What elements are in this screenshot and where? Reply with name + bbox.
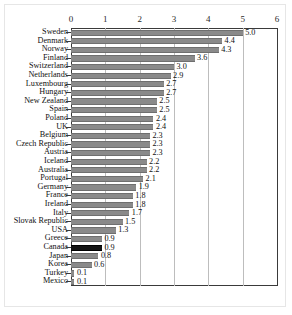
bar	[71, 184, 136, 190]
bar	[71, 236, 102, 242]
bar	[71, 73, 171, 79]
bar	[71, 30, 243, 36]
x-axis-tick-label: 2	[132, 14, 148, 25]
bar-row: Mexico0.1	[0, 277, 292, 286]
bar	[71, 81, 164, 87]
bar-highlighted	[71, 245, 102, 251]
x-axis-tick-label: 6	[269, 14, 285, 25]
bar-rows: Sweden5.0Denmark4.4Norway4.3Finland3.6Sw…	[0, 28, 292, 286]
x-axis-tick-label: 3	[166, 14, 182, 25]
bar	[71, 107, 157, 113]
bar-chart-figure: 0123456 Sweden5.0Denmark4.4Norway4.3Finl…	[0, 0, 292, 315]
category-label: Mexico	[43, 276, 68, 286]
bar	[71, 141, 150, 147]
bar-value-label: 0.1	[77, 277, 87, 287]
bar	[71, 219, 123, 225]
bar	[71, 55, 195, 61]
bar	[71, 98, 157, 104]
bar	[71, 133, 150, 139]
bar	[71, 279, 74, 285]
bar	[71, 210, 129, 216]
bar	[71, 176, 143, 182]
bar	[71, 159, 147, 165]
bar	[71, 47, 219, 53]
bar	[71, 116, 153, 122]
bar	[71, 90, 164, 96]
bar	[71, 270, 74, 276]
bar	[71, 262, 92, 268]
bar	[71, 202, 133, 208]
bar	[71, 193, 133, 199]
bar	[71, 64, 174, 70]
bar	[71, 167, 147, 173]
bar	[71, 253, 98, 259]
bar	[71, 124, 153, 130]
x-axis-tick-labels: 0123456	[0, 14, 292, 28]
x-axis-tick-label: 0	[63, 14, 79, 25]
bar	[71, 38, 222, 44]
bar	[71, 227, 116, 233]
x-axis-tick-label: 4	[200, 14, 216, 25]
bar	[71, 150, 150, 156]
x-axis-tick-label: 1	[97, 14, 113, 25]
x-axis-tick-label: 5	[235, 14, 251, 25]
